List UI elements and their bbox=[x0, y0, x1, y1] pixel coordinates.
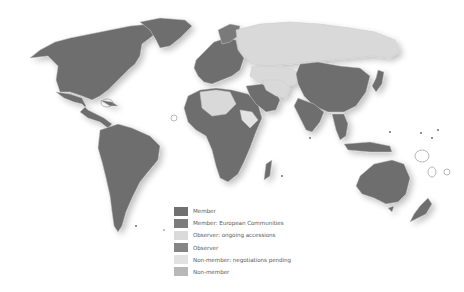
swatch-member bbox=[174, 207, 188, 216]
caribbean bbox=[100, 100, 118, 106]
pacific-circle-2 bbox=[428, 167, 436, 177]
swatch-observer bbox=[174, 243, 188, 252]
swatch-member-ec bbox=[174, 219, 188, 228]
legend-item-observer-accessions: Observer: ongoing accessions bbox=[174, 229, 291, 241]
madagascar bbox=[264, 160, 272, 180]
pacific-circle-1 bbox=[415, 150, 429, 162]
legend-label: Observer: ongoing accessions bbox=[193, 232, 275, 238]
legend-item-observer: Observer bbox=[174, 242, 291, 254]
legend-label: Non-member: negotiations pending bbox=[193, 257, 291, 263]
cape-verde-circle bbox=[171, 115, 177, 121]
legend-label: Non-member bbox=[193, 269, 229, 275]
legend-label: Member bbox=[193, 208, 216, 214]
south-america bbox=[98, 124, 160, 232]
indonesia bbox=[344, 142, 392, 152]
new-zealand bbox=[410, 198, 432, 222]
north-america bbox=[30, 24, 160, 100]
europe bbox=[194, 38, 244, 84]
southeast-asia bbox=[332, 114, 348, 140]
legend-item-non-member: Non-member bbox=[174, 266, 291, 278]
central-america bbox=[56, 92, 112, 128]
australia bbox=[356, 160, 410, 204]
russia bbox=[236, 22, 400, 66]
tasmania bbox=[388, 206, 394, 212]
legend-item-member: Member bbox=[174, 205, 291, 217]
swatch-non-member bbox=[174, 267, 188, 276]
swatch-observer-accessions bbox=[174, 231, 188, 240]
map-legend: Member Member: European Communities Obse… bbox=[174, 205, 291, 278]
legend-item-member-ec: Member: European Communities bbox=[174, 217, 291, 229]
legend-item-non-member-pending: Non-member: negotiations pending bbox=[174, 254, 291, 266]
legend-label: Member: European Communities bbox=[193, 220, 284, 226]
legend-label: Observer bbox=[193, 245, 218, 251]
pacific-circle-3 bbox=[444, 169, 450, 175]
japan bbox=[372, 70, 384, 92]
swatch-non-member-pending bbox=[174, 255, 188, 264]
